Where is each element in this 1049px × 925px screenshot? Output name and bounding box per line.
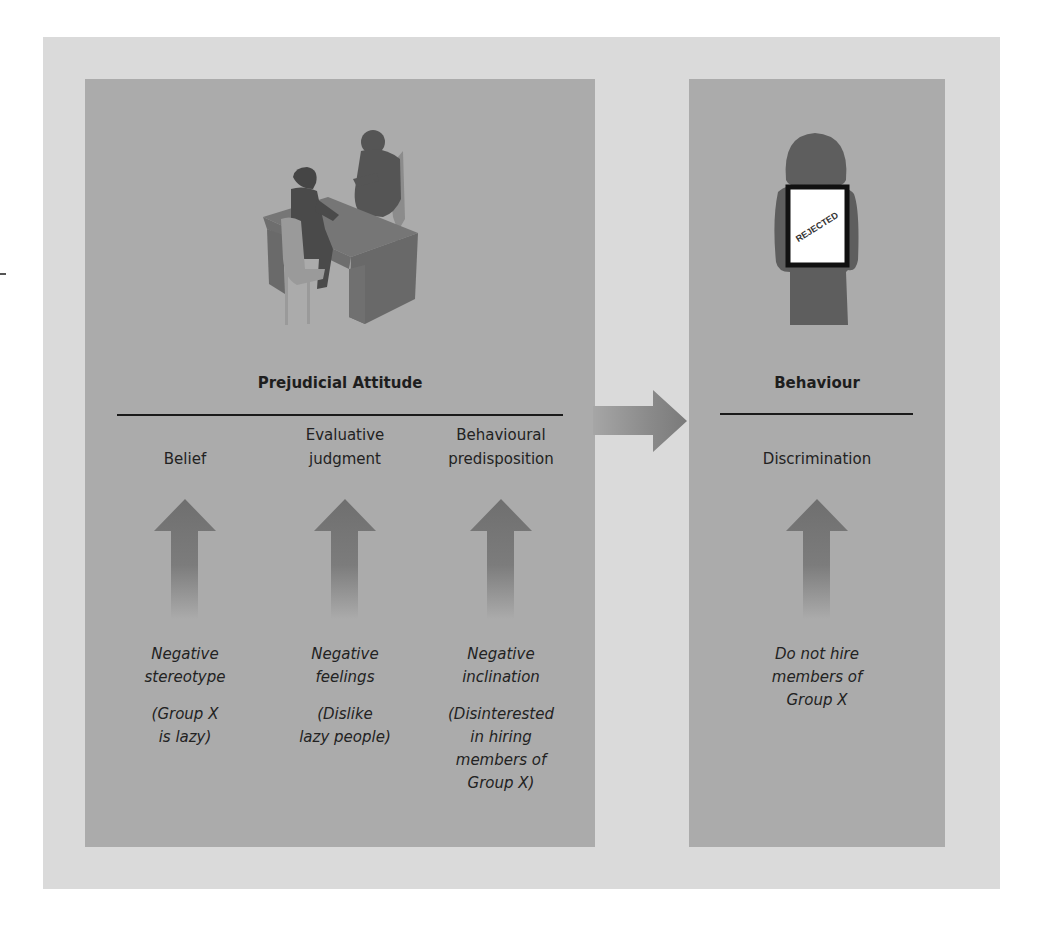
prejudicial-attitude-panel: Prejudicial Attitude Belief Negative ste…: [85, 79, 595, 847]
belief-example-text: (Group X is lazy): [105, 703, 265, 749]
heading-divider: [720, 413, 913, 415]
rejected-person-icon: REJECTED: [720, 130, 900, 330]
do-not-hire-text: Do not hire members of Group X: [737, 643, 897, 712]
prejudicial-attitude-heading: Prejudicial Attitude: [85, 374, 595, 392]
belief-label: Belief: [105, 447, 265, 471]
evaluative-judgment-label: Evaluative judgment: [265, 423, 425, 471]
negative-inclination-text: Negative inclination: [421, 643, 581, 689]
heading-divider: [117, 414, 563, 416]
behaviour-panel: REJECTED Behaviour Discrimination Do not…: [689, 79, 945, 847]
discrimination-label: Discrimination: [737, 447, 897, 471]
evaluative-example-text: (Dislike lazy people): [265, 703, 425, 749]
negative-feelings-text: Negative feelings: [265, 643, 425, 689]
up-arrow-icon: [785, 499, 849, 619]
up-arrow-icon: [469, 499, 533, 619]
negative-stereotype-text: Negative stereotype: [105, 643, 265, 689]
behavioural-example-text: (Disinterested in hiring members of Grou…: [421, 703, 581, 795]
meeting-interview-icon: [233, 129, 463, 339]
behaviour-heading: Behaviour: [689, 374, 945, 392]
right-arrow-icon: [593, 388, 689, 454]
up-arrow-icon: [153, 499, 217, 619]
stray-mark: [0, 273, 6, 275]
up-arrow-icon: [313, 499, 377, 619]
behavioural-predisposition-label: Behavioural predisposition: [421, 423, 581, 471]
